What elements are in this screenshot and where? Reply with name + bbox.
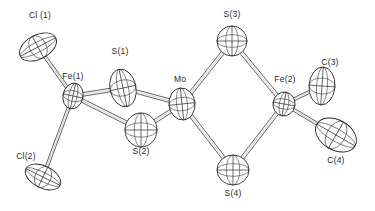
atom-label-cl1: Cl (1): [29, 10, 51, 20]
atom-ellipsoid-c4: [309, 111, 362, 159]
atom-label-fe1: Fe(1): [62, 71, 83, 81]
atom-ellipsoid-s3: [217, 26, 247, 56]
atom-ellipsoid-s1: [106, 67, 139, 110]
atom-label-s4: S(4): [225, 188, 242, 198]
bond: [80, 88, 114, 97]
bond: [45, 102, 72, 169]
atom-ellipsoid-s4: [217, 155, 249, 185]
bond: [186, 110, 229, 164]
atom-label-s2: S(2): [133, 146, 150, 156]
bond: [186, 47, 228, 98]
atom-label-s1: S(1): [112, 46, 129, 56]
atom-label-s3: S(3): [224, 9, 241, 19]
atom-ellipsoid-c3: [308, 66, 337, 106]
atom-label-c4: C(4): [327, 155, 344, 165]
molecular-structure-drawing: Cl (1)Fe(1)Cl(2)S(1)S(2)MoS(3)S(4)Fe(2)C…: [0, 0, 375, 211]
atom-label-fe2: Fe(2): [274, 74, 295, 84]
ortep-figure: Cl (1)Fe(1)Cl(2)S(1)S(2)MoS(3)S(4)Fe(2)C…: [0, 0, 375, 211]
atom-label-cl2: Cl(2): [16, 151, 35, 161]
atom-ellipsoid-cl1: [15, 27, 62, 67]
atom-label-c3: C(3): [321, 57, 338, 67]
atom-ellipsoid-s2: [125, 113, 157, 147]
atom-ellipsoid-cl2: [21, 159, 65, 195]
atom-label-mo: Mo: [174, 74, 186, 84]
bond: [237, 108, 281, 163]
bond: [132, 89, 174, 104]
